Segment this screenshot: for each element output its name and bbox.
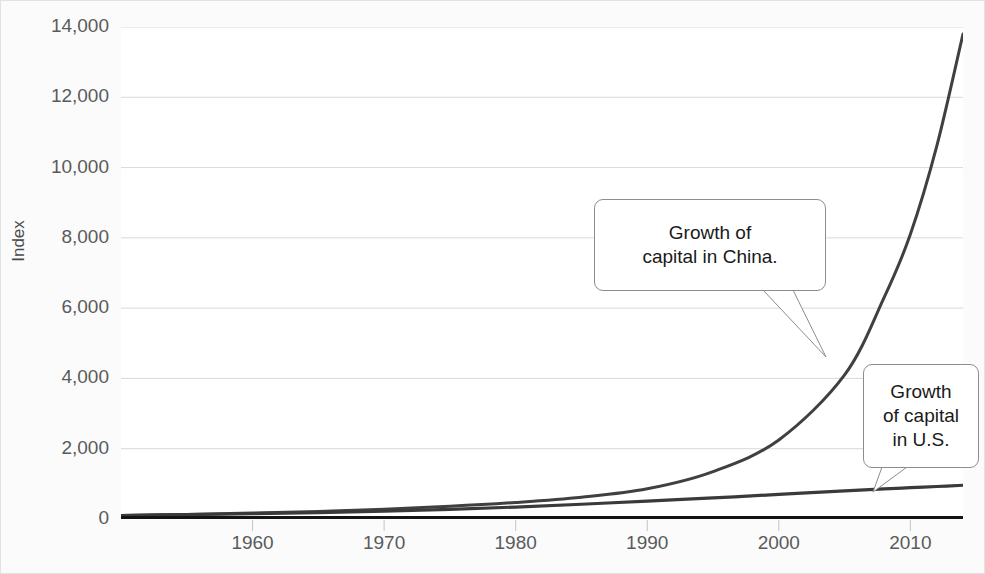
- annotation-callout-china[interactable]: Growth of capital in China.: [594, 199, 826, 291]
- x-tick-marks: [253, 520, 911, 531]
- series-line-china: [121, 34, 963, 515]
- chart-container: Capital (Wealth) Growth U.S. vs. China I…: [0, 0, 985, 574]
- y-tick-label: 2,000: [5, 437, 109, 459]
- data-series-lines: [121, 34, 963, 515]
- y-tick-label: 4,000: [5, 366, 109, 388]
- y-tick-label: 10,000: [5, 156, 109, 178]
- y-tick-label: 14,000: [5, 15, 109, 37]
- y-tick-label: 8,000: [5, 226, 109, 248]
- y-tick-label: 6,000: [5, 296, 109, 318]
- x-tick-label: 1980: [471, 532, 561, 554]
- plot-svg: [121, 27, 963, 519]
- x-tick-label: 2000: [734, 532, 824, 554]
- x-tick-label: 1960: [208, 532, 298, 554]
- annotation-callout-us[interactable]: Growth of capital in U.S.: [863, 364, 979, 468]
- x-tick-label: 1970: [339, 532, 429, 554]
- y-tick-label: 12,000: [5, 85, 109, 107]
- x-tick-label: 1990: [602, 532, 692, 554]
- plot-area: [121, 27, 963, 519]
- y-tick-label: 0: [5, 507, 109, 529]
- x-tick-label: 2010: [865, 532, 955, 554]
